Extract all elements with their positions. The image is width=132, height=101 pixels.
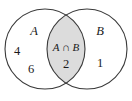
set-b-element-1: 1 — [97, 56, 103, 70]
set-a-element-4: 4 — [14, 44, 21, 58]
set-a-label: A — [29, 24, 38, 38]
venn-diagram-canvas: A B 4 6 1 A ∩ B 2 — [0, 0, 132, 101]
set-a-element-6: 6 — [28, 62, 34, 76]
venn-diagram-figure: A B 4 6 1 A ∩ B 2 — [0, 0, 132, 101]
intersection-element-2: 2 — [63, 57, 69, 71]
intersection-label: A ∩ B — [52, 41, 80, 53]
set-b-label: B — [96, 24, 104, 38]
